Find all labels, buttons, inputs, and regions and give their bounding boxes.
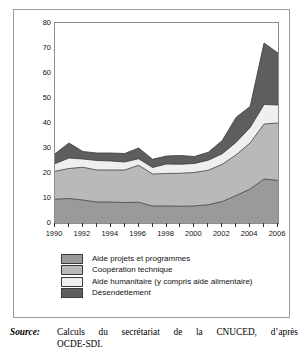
legend-item-aide-projets: Aide projets et programmes (61, 253, 286, 265)
x-tick-label-2000: 2000 (185, 229, 202, 238)
y-tick-80: 80 (43, 18, 51, 27)
x-tick-label-2004: 2004 (241, 229, 258, 238)
plot-area (54, 22, 279, 224)
source-note: Source: Calculs du secrétariat de la CNU… (10, 327, 298, 350)
y-tick-20: 20 (43, 168, 51, 177)
y-tick-70: 70 (43, 43, 51, 52)
x-tick-2006 (277, 223, 278, 227)
x-tick-1999 (179, 223, 180, 227)
x-tick-1991 (68, 223, 69, 227)
x-tick-1993 (96, 223, 97, 227)
plot-wrapper: 01020304050607080 1990199219941996199820… (40, 22, 278, 234)
x-axis-tick-labels: 199019921994199619982000200220042006 (40, 229, 292, 243)
x-tick-2005 (263, 223, 264, 227)
x-tick-label-1998: 1998 (157, 229, 174, 238)
x-tick-label-2006: 2006 (269, 229, 286, 238)
x-tick-2002 (221, 223, 222, 227)
x-tick-1997 (152, 223, 153, 227)
legend-label-desendettement: Désendettement (92, 288, 151, 298)
legend-item-cooperation-technique: Coopération technique (61, 265, 286, 277)
legend-swatch-cooperation-technique (61, 265, 83, 275)
x-tick-1996 (138, 223, 139, 227)
y-tick-40: 40 (43, 118, 51, 127)
chart-frame: 01020304050607080 1990199219941996199820… (13, 9, 290, 318)
y-tick-0: 0 (47, 218, 51, 227)
x-tick-label-1994: 1994 (101, 229, 118, 238)
x-tick-label-1990: 1990 (46, 229, 63, 238)
legend-item-desendettement: Désendettement (61, 288, 286, 300)
stacked-area-chart (55, 23, 278, 223)
x-tick-2004 (249, 223, 250, 227)
legend-swatch-aide-humanitaire (61, 277, 83, 287)
legend-swatch-desendettement (61, 288, 83, 298)
x-tick-1998 (166, 223, 167, 227)
legend-swatch-aide-projets (61, 254, 83, 264)
legend-item-aide-humanitaire: Aide humanitaire (y compris aide aliment… (61, 276, 286, 288)
y-tick-60: 60 (43, 68, 51, 77)
legend-label-cooperation-technique: Coopération technique (92, 265, 173, 275)
y-tick-50: 50 (43, 93, 51, 102)
source-label: Source: (10, 327, 40, 339)
x-tick-1992 (82, 223, 83, 227)
x-tick-2001 (207, 223, 208, 227)
source-text-line-2: OCDE-SDI. (57, 339, 298, 351)
source-text: Calculs du secrétariat de la CNUCED, d’a… (57, 327, 298, 350)
x-tick-1995 (124, 223, 125, 227)
y-axis-tick-labels: 01020304050607080 (40, 22, 54, 222)
x-tick-2000 (193, 223, 194, 227)
legend-label-aide-projets: Aide projets et programmes (92, 254, 190, 264)
y-tick-10: 10 (43, 193, 51, 202)
legend-label-aide-humanitaire: Aide humanitaire (y compris aide aliment… (92, 277, 253, 287)
y-tick-30: 30 (43, 143, 51, 152)
x-tick-2003 (235, 223, 236, 227)
x-tick-label-1996: 1996 (129, 229, 146, 238)
x-tick-1990 (54, 223, 55, 227)
x-tick-label-1992: 1992 (74, 229, 91, 238)
x-tick-label-2002: 2002 (213, 229, 230, 238)
chart-legend: Aide projets et programmes Coopération t… (61, 253, 286, 299)
source-text-line-1: Calculs du secrétariat de la CNUCED, d’a… (57, 327, 298, 339)
figure-page: 01020304050607080 1990199219941996199820… (0, 0, 304, 358)
x-tick-1994 (110, 223, 111, 227)
